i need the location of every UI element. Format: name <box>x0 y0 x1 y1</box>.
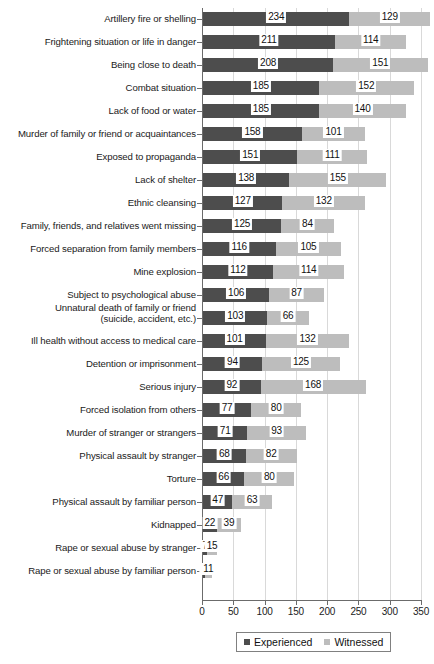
y-tick <box>197 479 202 480</box>
category-label: Kidnapped <box>0 519 196 530</box>
legend-label-witnessed: Witnessed <box>334 636 383 648</box>
legend-item-witnessed: Witnessed <box>324 636 383 648</box>
y-tick <box>197 134 202 135</box>
y-tick <box>197 272 202 273</box>
y-tick <box>197 203 202 204</box>
legend-swatch-witnessed-icon <box>324 639 330 645</box>
x-tick-label-350: 350 <box>406 606 434 617</box>
value-label-experienced: 116 <box>230 241 249 253</box>
value-label-witnessed: 114 <box>361 34 380 46</box>
chart-row: Artillery fire or shelling234129 <box>0 8 427 32</box>
value-label-witnessed: 63 <box>245 494 260 506</box>
category-label: Exposed to propaganda <box>0 151 196 162</box>
category-label: Murder of stranger or strangers <box>0 427 196 438</box>
chart-legend: Experienced Witnessed <box>236 632 391 652</box>
value-label-witnessed: 15 <box>205 540 220 552</box>
x-tick-label-150: 150 <box>281 606 311 617</box>
value-label-experienced: 68 <box>217 448 232 460</box>
y-tick <box>197 226 202 227</box>
chart-row: Physical assault by stranger6882 <box>0 445 427 469</box>
value-label-witnessed: 152 <box>356 80 376 92</box>
value-label-witnessed: 39 <box>222 517 237 529</box>
value-label-witnessed: 84 <box>300 218 315 230</box>
value-label-witnessed: 87 <box>289 287 304 299</box>
x-tick-200 <box>327 600 328 605</box>
y-tick <box>197 525 202 526</box>
y-tick <box>197 19 202 20</box>
value-label-witnessed: 132 <box>297 333 317 345</box>
chart-row: Murder of family or friend or acquaintan… <box>0 123 427 147</box>
x-tick-50 <box>233 600 234 605</box>
chart-row: Rape or sexual abuse by familiar person3… <box>0 560 427 584</box>
value-label-witnessed: 155 <box>328 172 348 184</box>
y-tick <box>197 433 202 434</box>
value-label-witnessed: 93 <box>269 425 284 437</box>
value-label-experienced: 112 <box>228 264 247 276</box>
category-label: Ethnic cleansing <box>0 197 196 208</box>
x-tick-0 <box>202 600 203 605</box>
y-tick <box>197 410 202 411</box>
category-label: Forced isolation from others <box>0 404 196 415</box>
value-label-experienced: 208 <box>258 57 278 69</box>
value-label-experienced: 125 <box>232 218 252 230</box>
category-label: Forced separation from family members <box>0 243 196 254</box>
y-tick <box>197 42 202 43</box>
value-label-experienced: 185 <box>251 103 271 115</box>
value-label-witnessed: 82 <box>264 448 279 460</box>
value-label-experienced: 22 <box>203 517 218 529</box>
value-label-witnessed: 66 <box>281 310 296 322</box>
y-tick <box>197 157 202 158</box>
chart-row: Ethnic cleansing127132 <box>0 192 427 216</box>
x-tick-100 <box>265 600 266 605</box>
value-label-witnessed: 80 <box>269 402 284 414</box>
y-tick <box>197 111 202 112</box>
y-tick <box>197 65 202 66</box>
category-label: Combat situation <box>0 82 196 93</box>
value-label-witnessed: 101 <box>323 126 343 138</box>
x-tick-label-0: 0 <box>187 606 217 617</box>
value-label-experienced: 185 <box>251 80 271 92</box>
value-label-witnessed: 168 <box>303 379 323 391</box>
value-label-experienced: 234 <box>266 11 286 23</box>
category-label: Lack of shelter <box>0 174 196 185</box>
chart-row: Ill health without access to medical car… <box>0 330 427 354</box>
x-tick-label-300: 300 <box>375 606 405 617</box>
value-label-experienced: 106 <box>226 287 246 299</box>
chart-row: Being close to death208151 <box>0 54 427 78</box>
value-label-experienced: 71 <box>218 425 233 437</box>
category-label: Rape or sexual abuse by familiar person <box>0 565 196 576</box>
category-label: Family, friends, and relatives went miss… <box>0 220 196 231</box>
value-label-witnessed: 105 <box>298 241 318 253</box>
value-label-witnessed: 132 <box>314 195 334 207</box>
category-label: Subject to psychological abuse <box>0 289 196 300</box>
category-label: Unnatural death of family or friend (sui… <box>0 302 196 324</box>
chart-row: Unnatural death of family or friend (sui… <box>0 307 427 331</box>
y-tick <box>197 456 202 457</box>
category-label: Torture <box>0 473 196 484</box>
value-label-experienced: 77 <box>220 402 235 414</box>
value-label-experienced: 66 <box>216 471 231 483</box>
chart-row: Frightening situation or life in danger2… <box>0 31 427 55</box>
chart-row: Forced isolation from others7780 <box>0 399 427 423</box>
chart-row: Exposed to propaganda151111 <box>0 146 427 170</box>
chart-row: Murder of stranger or strangers7193 <box>0 422 427 446</box>
value-label-experienced: 211 <box>259 34 278 46</box>
chart-row: Lack of shelter138155 <box>0 169 427 193</box>
value-label-experienced: 103 <box>225 310 245 322</box>
category-label: Frightening situation or life in danger <box>0 36 196 47</box>
x-tick-label-100: 100 <box>250 606 280 617</box>
chart-row: Detention or imprisonment94125 <box>0 353 427 377</box>
category-label: Murder of family or friend or acquaintan… <box>0 128 196 139</box>
chart-row: Serious injury92168 <box>0 376 427 400</box>
value-label-witnessed: 111 <box>323 149 342 161</box>
category-label: Lack of food or water <box>0 105 196 116</box>
x-tick-label-250: 250 <box>343 606 373 617</box>
value-label-experienced: 138 <box>236 172 256 184</box>
x-tick-350 <box>421 600 422 605</box>
category-label: Ill health without access to medical car… <box>0 335 196 346</box>
chart-row: Rape or sexual abuse by stranger715 <box>0 537 427 561</box>
value-label-experienced: 158 <box>242 126 262 138</box>
value-label-witnessed: 151 <box>370 57 390 69</box>
value-label-witnessed: 114 <box>299 264 318 276</box>
